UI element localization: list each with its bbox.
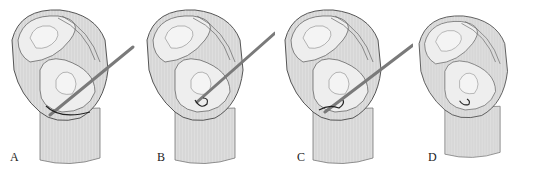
panel-label: C [297,150,305,165]
tibial-plateau-illustration [135,0,275,172]
panel-label: D [428,150,437,165]
panel-label: B [157,150,165,165]
panel-b: B [135,0,275,172]
panel-label: A [10,150,19,165]
panel-c: C [273,0,413,172]
panel-a: A [0,0,140,172]
tibial-plateau-illustration [0,0,140,172]
tibial-plateau-illustration [273,0,413,172]
tibial-plateau-illustration [408,0,537,172]
panel-d: D [408,0,537,172]
